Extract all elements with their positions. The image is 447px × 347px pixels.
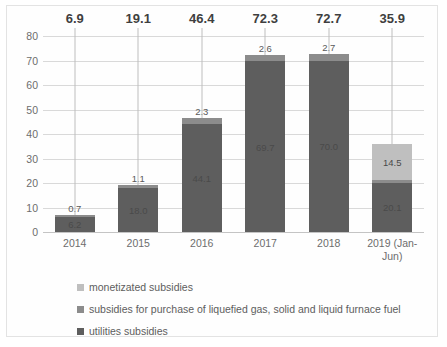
bar-segment[interactable]: 1.1 bbox=[118, 185, 158, 188]
x-axis-label: 2017 bbox=[234, 237, 298, 263]
bar-total-label: 19.1 bbox=[107, 11, 171, 26]
x-axis-category-labels: 201420152016201720182019 (Jan-Jun) bbox=[43, 237, 424, 263]
chart-container: 01020304050607080 6.20.76.918.01.119.144… bbox=[6, 5, 438, 337]
y-axis-tick-label: 70 bbox=[26, 55, 38, 67]
legend-swatch-icon bbox=[77, 284, 84, 291]
bar-total-label: 35.9 bbox=[361, 11, 425, 26]
y-axis-tick-label: 40 bbox=[26, 128, 38, 140]
y-axis-tick-label: 20 bbox=[26, 177, 38, 189]
stacked-bar[interactable]: 18.01.1 bbox=[118, 185, 158, 232]
bar-segment[interactable]: 0.7 bbox=[55, 215, 95, 217]
bar-segment-label: 69.7 bbox=[245, 141, 285, 152]
leader-line bbox=[74, 28, 75, 215]
bar-group[interactable]: 69.72.672.3 bbox=[234, 36, 298, 232]
bar-segment[interactable]: 2.3 bbox=[182, 118, 222, 124]
y-axis-tick-label: 0 bbox=[32, 226, 38, 238]
x-axis-label: 2018 bbox=[297, 237, 361, 263]
bar-segment[interactable]: 1.3 bbox=[372, 180, 412, 183]
bar-total-label: 6.9 bbox=[43, 11, 107, 26]
bar-segment-label: 44.1 bbox=[182, 172, 222, 183]
legend-label: utilities subsidies bbox=[89, 325, 168, 337]
bar-segment[interactable]: 18.0 bbox=[118, 188, 158, 232]
bar-segment-label: 18.0 bbox=[118, 204, 158, 215]
bar-segment[interactable]: 69.7 bbox=[245, 61, 285, 232]
gridline bbox=[43, 232, 424, 233]
bar-segment[interactable]: 2.6 bbox=[245, 55, 285, 61]
y-axis-tick-label: 80 bbox=[26, 30, 38, 42]
bar-segment[interactable]: 6.2 bbox=[55, 217, 95, 232]
bar-total-label: 72.7 bbox=[297, 11, 361, 26]
bar-segment-label: 6.2 bbox=[55, 219, 95, 230]
leader-line bbox=[265, 28, 266, 55]
leader-line bbox=[138, 28, 139, 185]
bar-group[interactable]: 6.20.76.9 bbox=[43, 36, 107, 232]
legend-item[interactable]: subsidies for purchase of liquefied gas,… bbox=[77, 298, 427, 320]
bar-total-label: 46.4 bbox=[170, 11, 234, 26]
bar-segment[interactable]: 14.5 bbox=[372, 144, 412, 180]
bar-segment[interactable]: 20.1 bbox=[372, 183, 412, 232]
bar-segment[interactable]: 70.0 bbox=[309, 61, 349, 233]
bar-group[interactable]: 20.11.314.535.9 bbox=[361, 36, 425, 232]
bar-segment-label: 70.0 bbox=[309, 141, 349, 152]
bar-segment-label: 14.5 bbox=[372, 156, 412, 167]
bar-group[interactable]: 70.02.772.7 bbox=[297, 36, 361, 232]
stacked-bar[interactable]: 6.20.7 bbox=[55, 215, 95, 232]
bar-segment-label: 20.1 bbox=[372, 202, 412, 213]
legend-label: monetizated subsidies bbox=[89, 281, 193, 293]
leader-line bbox=[328, 28, 329, 54]
legend-label: subsidies for purchase of liquefied gas,… bbox=[89, 303, 401, 315]
chart-legend: monetizated subsidiessubsidies for purch… bbox=[77, 276, 427, 342]
leader-line bbox=[201, 28, 202, 118]
bar-group[interactable]: 18.01.119.1 bbox=[107, 36, 171, 232]
legend-swatch-icon bbox=[77, 306, 84, 313]
y-axis-tick-label: 50 bbox=[26, 104, 38, 116]
y-axis-tick-label: 30 bbox=[26, 153, 38, 165]
stacked-bar[interactable]: 20.11.314.5 bbox=[372, 144, 412, 232]
plot-area: 01020304050607080 6.20.76.918.01.119.144… bbox=[43, 36, 424, 232]
stacked-bar[interactable]: 70.02.7 bbox=[309, 54, 349, 232]
y-axis-tick-label: 60 bbox=[26, 79, 38, 91]
legend-item[interactable]: monetizated subsidies bbox=[77, 276, 427, 298]
legend-swatch-icon bbox=[77, 328, 84, 335]
bar-groups: 6.20.76.918.01.119.144.12.346.469.72.672… bbox=[43, 36, 424, 232]
bar-total-label: 72.3 bbox=[234, 11, 298, 26]
bar-segment[interactable]: 44.1 bbox=[182, 124, 222, 232]
stacked-bar[interactable]: 44.12.3 bbox=[182, 118, 222, 232]
x-axis-label: 2015 bbox=[107, 237, 171, 263]
x-axis-label: 2014 bbox=[43, 237, 107, 263]
bar-group[interactable]: 44.12.346.4 bbox=[170, 36, 234, 232]
leader-line bbox=[392, 28, 393, 144]
y-axis-tick-label: 10 bbox=[26, 202, 38, 214]
legend-item[interactable]: utilities subsidies bbox=[77, 320, 427, 342]
bar-segment[interactable]: 2.7 bbox=[309, 54, 349, 61]
stacked-bar[interactable]: 69.72.6 bbox=[245, 55, 285, 232]
x-axis-label: 2019 (Jan-Jun) bbox=[361, 237, 425, 263]
x-axis-label: 2016 bbox=[170, 237, 234, 263]
